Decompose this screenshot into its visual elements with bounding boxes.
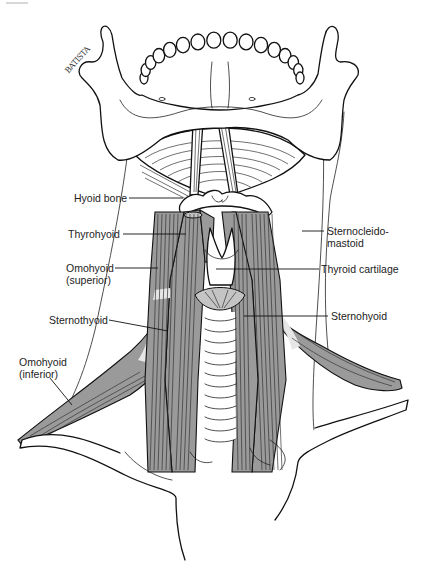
label-thyrohyoid: Thyrohyoid <box>68 228 120 240</box>
tooth <box>164 42 176 57</box>
tooth <box>268 42 280 57</box>
tooth <box>191 34 205 50</box>
tooth <box>176 37 189 52</box>
tooth <box>254 37 267 52</box>
label-sternocleidomastoid: Sternocleido- mastoid <box>327 225 389 249</box>
leader-omohyoid-inferior <box>50 378 72 405</box>
tooth <box>153 49 165 63</box>
tooth <box>223 32 237 48</box>
tooth <box>239 34 253 50</box>
tooth <box>296 72 304 84</box>
label-thyroid-cartilage: Thyroid cartilage <box>321 263 399 275</box>
thyroid-cartilage <box>205 228 238 285</box>
omohyoid-inferior-left <box>18 318 165 445</box>
omohyoid-inferior-right <box>275 318 402 391</box>
tooth <box>207 32 221 48</box>
label-sternothyoid: Sternothyoid <box>49 314 108 326</box>
label-omohyoid-superior: Omohyoid (superior) <box>66 262 114 286</box>
label-hyoid-bone: Hyoid bone <box>74 192 127 204</box>
label-omohyoid-inferior: Omohyoid (inferior) <box>19 356 67 380</box>
label-sternohyoid: Sternohyoid <box>331 310 387 322</box>
trachea <box>205 312 236 442</box>
teeth <box>140 32 304 84</box>
